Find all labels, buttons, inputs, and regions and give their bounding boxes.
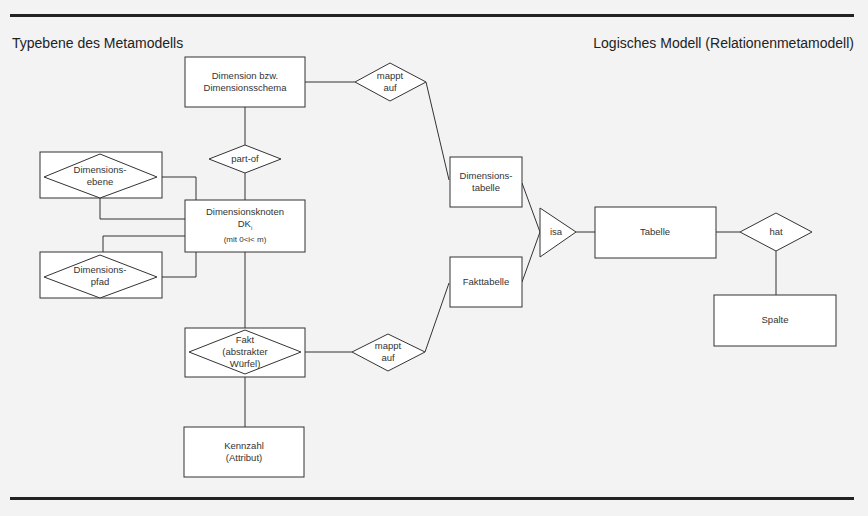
dimensionspfad-line2: pfad (91, 276, 110, 287)
dimensionsebene-label: Dimensions- ebene (74, 164, 127, 188)
dimensionsknoten-subscript: i (251, 225, 252, 231)
dimensionspfad-label: Dimensions- pfad (74, 264, 127, 288)
kennzahl-label: Kennzahl (Attribut) (224, 440, 264, 464)
fakt-line1: Fakt (236, 334, 254, 345)
dimensionsknoten-line2: DK (238, 218, 251, 229)
er-diagram-shapes (0, 0, 868, 516)
relationship-mappt-bottom-label: mappt auf (375, 340, 401, 364)
connector-mappt-dimtabelle (426, 82, 449, 180)
spalte-label: Spalte (762, 314, 789, 326)
relationship-isa-label: isa (550, 226, 562, 238)
mappt-bottom-line1: mappt (375, 340, 401, 351)
dimensionsebene-line1: Dimensions- (74, 164, 127, 175)
dimensionsknoten-line1: Dimensionsknoten (206, 206, 284, 217)
relationship-hat-label: hat (769, 226, 782, 238)
relationship-mappt-top-label: mappt auf (377, 70, 403, 94)
dimensionstabelle-line1: Dimensions- (460, 170, 513, 181)
tabelle-label: Tabelle (640, 226, 670, 238)
connector-mappt-fakttabelle (425, 283, 449, 352)
connector-dimtabelle-isa (522, 183, 540, 232)
mappt-top-line1: mappt (377, 70, 403, 81)
connector-pfad-knoten-bottom (157, 252, 196, 277)
dimensionstabelle-line2: tabelle (472, 182, 500, 193)
dimensionsknoten-line3: (mit 0<i< m) (206, 234, 284, 246)
entity-dimension-schema-label: Dimension bzw. Dimensionsschema (204, 70, 287, 94)
dimensionstabelle-label: Dimensions- tabelle (460, 170, 513, 194)
relationship-partof-label: part-of (231, 153, 258, 165)
dimensionsebene-line2: ebene (87, 176, 113, 187)
fakt-line3: Würfel) (230, 358, 261, 369)
fakt-label: Fakt (abstrakter Würfel) (222, 334, 267, 370)
dimensionspfad-line1: Dimensions- (74, 264, 127, 275)
dimensionsknoten-label: Dimensionsknoten DKi (mit 0<i< m) (206, 206, 284, 246)
kennzahl-line2: (Attribut) (226, 452, 262, 463)
dimension-schema-line2: Dimensionsschema (204, 82, 287, 93)
diagram-canvas: Typebene des Metamodells Logisches Model… (0, 0, 868, 516)
mappt-bottom-line2: auf (381, 352, 394, 363)
mappt-top-line2: auf (383, 82, 396, 93)
connector-ebene-knoten-bottom (100, 198, 185, 219)
connector-ebene-knoten-top (157, 177, 196, 200)
connector-fakttabelle-isa (522, 232, 540, 282)
fakttabelle-label: Fakttabelle (463, 276, 509, 288)
dimension-schema-line1: Dimension bzw. (212, 70, 279, 81)
connector-pfad-knoten-top (103, 236, 185, 252)
fakt-line2: (abstrakter (222, 346, 267, 357)
kennzahl-line1: Kennzahl (224, 440, 264, 451)
